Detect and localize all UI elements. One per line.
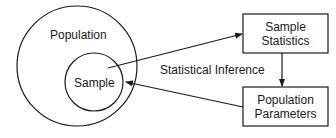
population-label: Population xyxy=(50,28,107,42)
sample-statistics-line1: Sample xyxy=(265,20,306,34)
sample-label: Sample xyxy=(74,76,115,90)
statistical-inference-label: Statistical Inference xyxy=(160,63,265,77)
population-circle xyxy=(17,6,137,126)
population-parameters-line1: Population xyxy=(257,93,314,107)
population-parameters-line2: Parameters xyxy=(254,107,316,121)
arrow-parameters-to-sample xyxy=(126,82,243,107)
statistical-inference-diagram: Population Sample Sample Statistics Popu… xyxy=(0,0,336,138)
sample-statistics-line2: Statistics xyxy=(261,34,309,48)
